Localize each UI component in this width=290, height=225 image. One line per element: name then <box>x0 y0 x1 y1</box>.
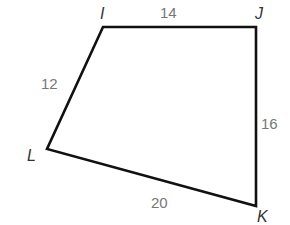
vertex-label-J: J <box>254 5 264 22</box>
side-label-KL: 20 <box>151 194 168 211</box>
vertex-label-I: I <box>100 5 105 22</box>
vertex-label-K: K <box>257 208 269 225</box>
quadrilateral-IJKL <box>47 27 256 206</box>
quadrilateral-diagram: I J K L 14 12 16 20 <box>0 0 290 225</box>
side-label-LI: 12 <box>41 75 58 92</box>
side-label-JK: 16 <box>261 115 278 132</box>
vertex-label-L: L <box>27 147 36 164</box>
side-label-IJ: 14 <box>160 4 177 21</box>
